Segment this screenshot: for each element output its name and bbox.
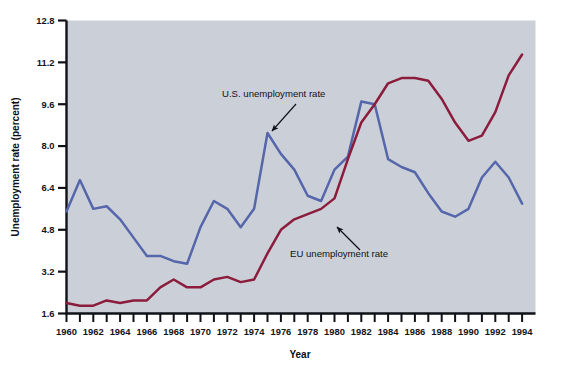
y-axis-tick-label: 1.6 <box>41 308 54 319</box>
x-axis-tick-label: 1988 <box>431 326 452 337</box>
unemployment-line-chart: 1960196219641966196819701972197419761978… <box>0 0 566 367</box>
x-axis-tick-label: 1970 <box>190 326 211 337</box>
y-axis-tick-label: 12.8 <box>36 15 54 26</box>
x-axis-tick-label: 1964 <box>110 326 132 337</box>
x-axis-tick-label: 1960 <box>56 326 77 337</box>
x-axis-tick-label: 1994 <box>512 326 534 337</box>
y-axis-tick-label: 9.6 <box>41 99 54 110</box>
y-axis-title: Unemployment rate (percent) <box>10 98 21 237</box>
plot-background <box>67 21 536 314</box>
x-axis-tick-label: 1974 <box>244 326 266 337</box>
x-axis-tick-label: 1962 <box>83 326 104 337</box>
y-axis-tick-label: 11.2 <box>37 57 55 68</box>
x-axis-tick-label: 1968 <box>163 326 184 337</box>
y-axis-tick-label: 3.2 <box>41 266 54 277</box>
series-annotation-label: EU unemployment rate <box>290 248 388 259</box>
x-axis-tick-label: 1986 <box>404 326 425 337</box>
y-axis-tick-label: 6.4 <box>41 182 55 193</box>
x-axis-tick-label: 1972 <box>217 326 238 337</box>
series-annotation-label: U.S. unemployment rate <box>222 88 325 99</box>
x-axis-tick-label: 1982 <box>351 326 372 337</box>
figure-canvas: 1960196219641966196819701972197419761978… <box>0 0 566 367</box>
x-axis-title: Year <box>289 349 310 360</box>
x-axis-tick-label: 1990 <box>458 326 479 337</box>
y-axis-tick-label: 8.0 <box>41 140 54 151</box>
x-axis-tick-label: 1980 <box>324 326 345 337</box>
x-axis-tick-label: 1966 <box>136 326 157 337</box>
x-axis-tick-label: 1976 <box>270 326 291 337</box>
x-axis-tick-label: 1978 <box>297 326 318 337</box>
plot-area-background <box>67 21 536 314</box>
x-axis-tick-label: 1984 <box>378 326 400 337</box>
x-axis-tick-label: 1992 <box>485 326 506 337</box>
y-axis-tick-label: 4.8 <box>41 224 54 235</box>
